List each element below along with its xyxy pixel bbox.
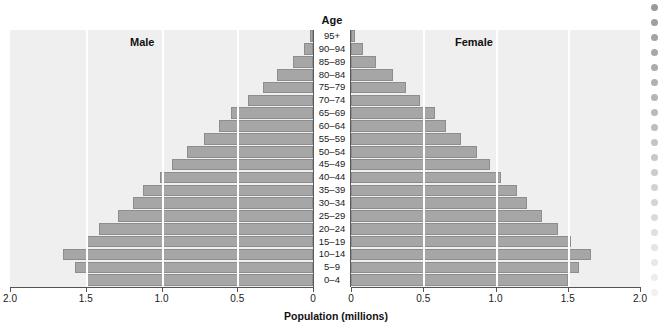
age-label-column: 95+90–9485–8980–8475–7970–7465–6960–6455… xyxy=(313,30,351,287)
male-bar-70-74 xyxy=(248,95,313,107)
figure-root: Age 95+90–9485–8980–8475–7970–7465–6960–… xyxy=(0,0,672,336)
decorative-dot xyxy=(651,139,658,146)
x-tick-label-male-1.5: 1.5 xyxy=(79,293,93,304)
decorative-dot xyxy=(651,79,658,86)
female-bar-85-89 xyxy=(351,56,376,68)
female-bar-75-79 xyxy=(351,82,406,94)
x-tick-label-male-0.5: 0.5 xyxy=(230,293,244,304)
female-bar-50-54 xyxy=(351,146,477,158)
x-axis-title: Population (millions) xyxy=(0,310,672,322)
age-band-label: 65–69 xyxy=(314,107,350,120)
male-bar-55-59 xyxy=(204,133,313,145)
x-tick-male-1.0 xyxy=(162,287,163,292)
female-bar-15-19 xyxy=(351,236,571,248)
age-band-label: 55–59 xyxy=(314,133,350,146)
x-tick-label-male-2.0: 2.0 xyxy=(3,293,17,304)
male-bar-90-94 xyxy=(304,43,313,55)
male-bar-50-54 xyxy=(187,146,313,158)
male-bar-35-39 xyxy=(143,185,313,197)
female-bar-0-4 xyxy=(351,274,568,286)
male-bar-25-29 xyxy=(118,210,313,222)
female-bar-35-39 xyxy=(351,185,517,197)
x-tick-male-0 xyxy=(313,287,314,292)
decorative-dot xyxy=(651,199,658,206)
age-band-label: 30–34 xyxy=(314,197,350,210)
gridline-female-1 xyxy=(496,30,498,287)
decorative-dot xyxy=(651,169,658,176)
male-bar-20-24 xyxy=(99,223,313,235)
decorative-dot xyxy=(651,154,658,161)
female-bar-70-74 xyxy=(351,95,420,107)
x-tick-label-female-1.0: 1.0 xyxy=(489,293,503,304)
decorative-dot xyxy=(651,244,658,251)
gridline-female-0.5 xyxy=(423,30,425,287)
female-bar-40-44 xyxy=(351,172,501,184)
age-band-label: 90–94 xyxy=(314,43,350,56)
male-bar-30-34 xyxy=(133,197,313,209)
female-series-label: Female xyxy=(455,36,493,48)
x-tick-label-female-2.0: 2.0 xyxy=(633,293,647,304)
age-band-label: 60–64 xyxy=(314,120,350,133)
gridline-male-1.5 xyxy=(86,30,88,287)
male-bar-10-14 xyxy=(63,249,313,261)
decorative-dot xyxy=(651,124,658,131)
x-tick-female-0 xyxy=(351,287,352,292)
decorative-dot xyxy=(651,259,658,266)
female-bar-65-69 xyxy=(351,107,435,119)
female-bar-80-84 xyxy=(351,69,393,81)
male-bar-75-79 xyxy=(263,82,313,94)
female-bar-55-59 xyxy=(351,133,461,145)
female-bar-20-24 xyxy=(351,223,558,235)
decorative-dot xyxy=(651,19,658,26)
male-series-label: Male xyxy=(130,36,154,48)
gridline-male-1 xyxy=(162,30,164,287)
female-bar-45-49 xyxy=(351,159,490,171)
decorative-dot xyxy=(651,34,658,41)
x-tick-label-female-1.5: 1.5 xyxy=(561,293,575,304)
x-tick-label-male-1.0: 1.0 xyxy=(155,293,169,304)
female-bar-25-29 xyxy=(351,210,542,222)
x-tick-male-2.0 xyxy=(10,287,11,292)
age-band-label: 80–84 xyxy=(314,69,350,82)
male-bar-60-64 xyxy=(219,120,313,132)
male-bar-85-89 xyxy=(293,56,313,68)
age-band-label: 10–14 xyxy=(314,248,350,261)
male-bar-65-69 xyxy=(231,107,313,119)
age-band-label: 40–44 xyxy=(314,171,350,184)
age-band-label: 20–24 xyxy=(314,223,350,236)
age-axis-title: Age xyxy=(305,14,359,26)
age-band-label: 0–4 xyxy=(314,274,350,287)
decorative-dot xyxy=(651,229,658,236)
male-bar-15-19 xyxy=(86,236,313,248)
female-bar-95+ xyxy=(351,30,355,42)
age-band-label: 75–79 xyxy=(314,81,350,94)
female-bar-5-9 xyxy=(351,262,579,274)
x-tick-label-female-0.5: 0.5 xyxy=(416,293,430,304)
age-label-list: 95+90–9485–8980–8475–7970–7465–6960–6455… xyxy=(314,30,350,287)
male-bar-0-4 xyxy=(87,274,313,286)
gridline-female-1.5 xyxy=(568,30,570,287)
decorative-dot xyxy=(651,109,658,116)
decorative-dot xyxy=(651,214,658,221)
x-tick-female-1.5 xyxy=(568,287,569,292)
age-band-label: 25–29 xyxy=(314,210,350,223)
age-band-label: 85–89 xyxy=(314,56,350,69)
female-bar-90-94 xyxy=(351,43,363,55)
x-tick-female-0.5 xyxy=(423,287,424,292)
gridline-male-0.5 xyxy=(237,30,239,287)
age-band-label: 70–74 xyxy=(314,94,350,107)
decorative-dot xyxy=(651,64,658,71)
male-bar-45-49 xyxy=(172,159,313,171)
male-bar-80-84 xyxy=(277,69,313,81)
female-bar-30-34 xyxy=(351,197,527,209)
x-tick-female-2.0 xyxy=(640,287,641,292)
x-tick-male-1.5 xyxy=(86,287,87,292)
age-band-label: 35–39 xyxy=(314,184,350,197)
age-band-label: 5–9 xyxy=(314,261,350,274)
page-edge-dots-decoration xyxy=(651,4,663,304)
age-band-label: 15–19 xyxy=(314,236,350,249)
decorative-dot xyxy=(651,94,658,101)
decorative-dot xyxy=(651,289,658,296)
age-band-label: 95+ xyxy=(314,30,350,43)
decorative-dot xyxy=(651,184,658,191)
